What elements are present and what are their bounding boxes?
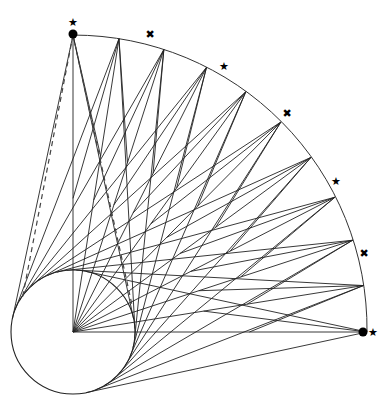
- spoke-connector: [133, 92, 246, 213]
- endpoint-dot: [69, 30, 78, 39]
- geometric-diagram: ★✖★✖★✖★: [0, 0, 390, 407]
- star-marker-icon: ★: [368, 326, 378, 339]
- endpoint-dot: [359, 328, 368, 337]
- tangent-line: [25, 67, 207, 293]
- tangent-line: [119, 157, 310, 373]
- tangent-line: [76, 270, 363, 285]
- spoke-connector: [230, 157, 311, 251]
- radial-line: [73, 39, 119, 332]
- tangent-line: [48, 157, 311, 275]
- tangent-line: [31, 92, 245, 286]
- tangent-line: [119, 39, 135, 329]
- star-marker-icon: ★: [68, 16, 78, 29]
- diagram-canvas: ★✖★✖★✖★: [0, 0, 390, 407]
- tangent-line: [39, 122, 281, 280]
- star-marker-icon: ★: [331, 175, 341, 188]
- dashed-line: [22, 35, 73, 300]
- spoke-connector: [241, 197, 335, 277]
- star-marker-icon: ✖: [282, 107, 291, 120]
- radial-line: [73, 92, 246, 332]
- radial-line: [73, 157, 311, 332]
- spoke-connector: [73, 39, 119, 199]
- tangent-line: [86, 332, 367, 393]
- star-marker-icon: ✖: [145, 28, 154, 41]
- star-marker-icon: ★: [219, 60, 229, 73]
- tangent-line: [130, 92, 246, 357]
- spoke-connector: [167, 157, 311, 237]
- tangent-line: [12, 35, 73, 319]
- star-marker-icon: ✖: [359, 247, 368, 260]
